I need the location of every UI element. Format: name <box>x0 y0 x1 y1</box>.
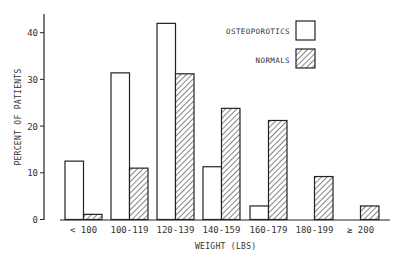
bar-normals-0 <box>84 214 103 219</box>
x-category-label: 100-119 <box>111 225 149 235</box>
bar-osteoporotics-2 <box>157 23 176 219</box>
x-category-label: 120-139 <box>157 225 195 235</box>
bar-normals-6 <box>361 206 380 220</box>
bar-normals-4 <box>269 120 288 219</box>
y-tick-label: 10 <box>27 168 38 178</box>
bar-osteoporotics-1 <box>111 73 130 220</box>
bar-osteoporotics-3 <box>203 167 222 220</box>
bar-osteoporotics-4 <box>250 206 269 220</box>
legend-swatch-normals <box>296 49 315 68</box>
x-category-label: ≥ 200 <box>347 225 374 235</box>
x-category-label: 140-159 <box>203 225 241 235</box>
bar-normals-3 <box>222 108 241 219</box>
y-axis-title: PERCENT OF PATIENTS <box>14 68 23 165</box>
y-tick-label: 40 <box>27 28 38 38</box>
bar-chart: 010203040 PERCENT OF PATIENTS < 100100-1… <box>0 0 401 261</box>
y-tick-label: 20 <box>27 122 38 132</box>
bar-normals-5 <box>315 177 334 220</box>
bar-normals-1 <box>130 168 149 219</box>
y-tick-label: 30 <box>27 75 38 85</box>
x-category-label: < 100 <box>70 225 97 235</box>
bars-group <box>65 23 379 219</box>
y-axis: 010203040 <box>27 14 44 225</box>
bar-normals-2 <box>176 74 195 220</box>
x-category-label: 160-179 <box>250 225 288 235</box>
x-category-label: 180-199 <box>296 225 334 235</box>
legend-label-osteoporotics: OSTEOPOROTICS <box>226 27 290 36</box>
y-tick-label: 0 <box>33 215 38 225</box>
x-axis-title: WEIGHT (LBS) <box>195 242 256 251</box>
bar-osteoporotics-0 <box>65 161 84 219</box>
legend-label-normals: NORMALS <box>256 56 290 65</box>
legend-swatch-osteoporotics <box>296 21 315 40</box>
legend: OSTEOPOROTICS NORMALS <box>226 21 315 68</box>
x-axis-categories: < 100100-119120-139140-159160-179180-199… <box>70 225 374 235</box>
